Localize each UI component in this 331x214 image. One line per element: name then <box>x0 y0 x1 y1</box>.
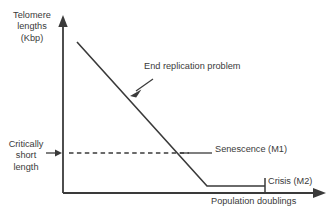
threshold-pointer-arrow-icon <box>46 150 62 157</box>
end-replication-problem-arrow-icon <box>130 79 153 97</box>
x-axis-arrowhead-icon <box>313 188 326 198</box>
y-axis-arrowhead-icon <box>58 15 67 27</box>
telomere-diagram-canvas: Telomere lengths (Kbp) Critically short … <box>0 0 331 214</box>
critically-short-length-label: Critically short length <box>4 139 48 173</box>
senescence-label: Senescence (M1) <box>215 144 287 155</box>
x-axis-title: Population doublings <box>211 196 296 207</box>
crisis-label: Crisis (M2) <box>268 176 312 187</box>
y-axis <box>58 15 67 193</box>
y-axis-title: Telomere lengths (Kbp) <box>6 10 58 44</box>
threshold-pointer-head <box>55 150 62 157</box>
end-replication-problem-label: End replication problem <box>144 61 241 72</box>
erp-arrow-shaft <box>136 79 153 91</box>
erp-arrow-head <box>130 90 141 98</box>
